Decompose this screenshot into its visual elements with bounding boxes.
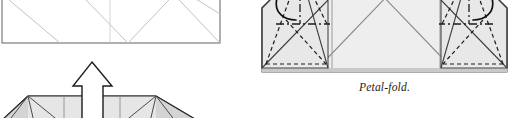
caption-petal-fold: Petal-fold. <box>256 80 513 94</box>
figure-preceding-step <box>0 0 225 46</box>
figure-following-step <box>0 60 206 118</box>
page-canvas: Petal-fold. <box>0 0 513 118</box>
figure-petal-fold <box>256 0 513 76</box>
